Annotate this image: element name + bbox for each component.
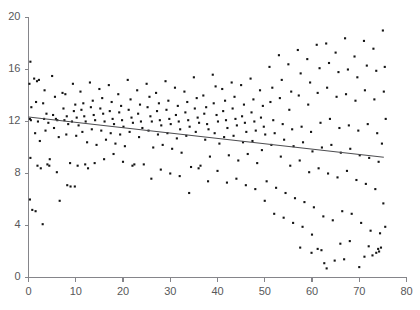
x-tick-label: 80 (400, 285, 412, 297)
data-point (148, 96, 150, 98)
data-point (380, 247, 382, 249)
data-point (184, 111, 186, 113)
x-tick-label: 50 (259, 285, 271, 297)
data-point (156, 110, 158, 112)
data-point (374, 188, 376, 190)
data-point (302, 226, 304, 228)
data-point (216, 114, 218, 116)
data-point (146, 83, 148, 85)
data-point (358, 266, 360, 268)
data-point (119, 133, 121, 135)
data-point (90, 106, 92, 108)
data-point (207, 180, 209, 182)
data-point (311, 234, 313, 236)
data-point (149, 115, 151, 117)
data-point (336, 176, 338, 178)
data-point (301, 126, 303, 128)
data-point (325, 42, 327, 44)
data-point (78, 124, 80, 126)
data-point (264, 133, 266, 135)
data-point (52, 114, 54, 116)
data-point (261, 149, 263, 151)
data-point (193, 76, 195, 78)
data-point (81, 131, 83, 133)
data-point (118, 111, 120, 113)
data-point (51, 75, 53, 77)
data-point (313, 206, 315, 208)
data-point (264, 200, 266, 202)
data-point (87, 167, 89, 169)
data-point (347, 68, 349, 70)
data-point (236, 124, 238, 126)
data-point (33, 78, 35, 80)
data-point (384, 226, 386, 228)
data-point (384, 66, 386, 68)
data-point (338, 127, 340, 129)
data-point (334, 260, 336, 262)
data-point (363, 40, 365, 42)
data-point (170, 123, 172, 125)
data-point (158, 102, 160, 104)
data-point (67, 123, 69, 125)
data-point (157, 133, 159, 135)
data-point (216, 170, 218, 172)
data-point (310, 131, 312, 133)
data-point (131, 165, 133, 167)
data-point (319, 122, 321, 124)
data-point (199, 165, 201, 167)
data-point (94, 119, 96, 121)
data-point (65, 133, 67, 135)
data-point (98, 88, 100, 90)
data-point (235, 178, 237, 180)
y-tick-label: 4 (14, 218, 20, 230)
data-point (181, 152, 183, 154)
data-point (225, 119, 227, 121)
data-point (318, 167, 320, 169)
data-point (375, 70, 377, 72)
data-point (368, 157, 370, 159)
data-point (341, 210, 343, 212)
data-point (213, 102, 215, 104)
data-point (344, 37, 346, 39)
data-point (337, 71, 339, 73)
data-point (159, 119, 161, 121)
data-point (136, 89, 138, 91)
data-point (231, 81, 233, 83)
data-point (254, 188, 256, 190)
data-point (58, 136, 60, 138)
y-tick-label: 8 (14, 166, 20, 178)
data-point (383, 91, 385, 93)
data-point (100, 130, 102, 132)
data-point (226, 127, 228, 129)
data-point (372, 48, 374, 50)
data-points-layer (28, 29, 386, 269)
scatter-plot-figure: 048121620 01020304050607080 (0, 0, 420, 310)
data-point (164, 80, 166, 82)
data-point (232, 107, 234, 109)
data-point (48, 165, 50, 167)
data-point (203, 113, 205, 115)
data-point (368, 245, 370, 247)
data-point (251, 140, 253, 142)
data-point (311, 150, 313, 152)
data-point (178, 120, 180, 122)
data-point (307, 104, 309, 106)
data-point (302, 141, 304, 143)
data-point (124, 145, 126, 147)
data-point (226, 182, 228, 184)
data-point (207, 128, 209, 130)
data-point (44, 130, 46, 132)
data-point (198, 167, 200, 169)
data-point (218, 143, 220, 145)
data-point (198, 122, 200, 124)
data-point (73, 110, 75, 112)
data-point (300, 72, 302, 74)
data-point (204, 139, 206, 141)
data-point (221, 88, 223, 90)
data-point (168, 118, 170, 120)
data-point (130, 98, 132, 100)
x-tick-label: 70 (353, 285, 365, 297)
x-tick-labels: 01020304050607080 (25, 285, 412, 297)
data-point (346, 170, 348, 172)
data-point (250, 78, 252, 80)
